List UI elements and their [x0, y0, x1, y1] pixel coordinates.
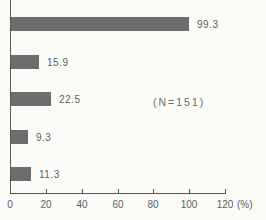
bar-0: [11, 17, 189, 31]
x-tick-40: [82, 189, 83, 193]
x-tick-100: [189, 189, 190, 193]
x-tick-60: [118, 189, 119, 193]
bar-4: [11, 167, 31, 181]
x-tick-label-20: 20: [40, 199, 51, 210]
bar-value-label-1: 15.9: [47, 57, 68, 68]
x-tick-label-0: 0: [7, 199, 13, 210]
x-tick-80: [153, 189, 154, 193]
bar-value-label-0: 99.3: [197, 19, 218, 30]
bar-value-label-2: 22.5: [59, 94, 80, 105]
x-tick-120: [225, 189, 226, 193]
bar-1: [11, 55, 39, 69]
horizontal-bar-chart: 99.315.922.59.311.3 020406080100120 (N=1…: [0, 0, 266, 220]
x-tick-label-120: 120: [217, 199, 234, 210]
x-tick-label-60: 60: [112, 199, 123, 210]
bar-2: [11, 92, 51, 106]
x-tick-label-40: 40: [76, 199, 87, 210]
bar-3: [11, 130, 28, 144]
x-axis-line: [10, 193, 226, 194]
bar-value-label-3: 9.3: [36, 132, 51, 143]
x-tick-label-100: 100: [181, 199, 198, 210]
x-tick-label-80: 80: [147, 199, 158, 210]
x-axis-unit-label: (%): [237, 199, 253, 210]
bar-value-label-4: 11.3: [39, 169, 60, 180]
x-tick-20: [46, 189, 47, 193]
sample-size-annotation: (N=151): [153, 96, 205, 108]
